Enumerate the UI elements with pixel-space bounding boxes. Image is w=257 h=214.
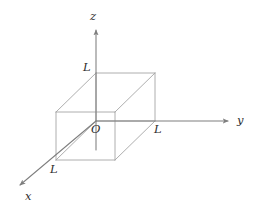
z-tick-label-L: L — [83, 62, 91, 74]
y-tick-label-L: L — [154, 124, 162, 136]
x-axis-label: x — [25, 191, 32, 203]
origin-label: O — [91, 124, 100, 136]
figure-container: z y x L L L O — [0, 0, 257, 214]
cube-wireframe — [56, 73, 155, 160]
cube-edge-depth-bottom-right — [115, 121, 155, 160]
cube-edge-depth-top-left — [56, 73, 96, 112]
y-axis-label: y — [237, 115, 244, 127]
cube-depth-edges — [56, 73, 155, 160]
cube-edge-depth-bottom-left — [56, 121, 96, 160]
x-axis-line — [20, 121, 96, 185]
cube-near-face — [96, 73, 155, 121]
axes-cube-diagram — [0, 0, 257, 214]
cube-far-face — [56, 112, 115, 160]
z-axis-label: z — [90, 11, 96, 23]
x-tick-label-L: L — [50, 164, 58, 176]
cube-edge-depth-top-right — [115, 73, 155, 112]
